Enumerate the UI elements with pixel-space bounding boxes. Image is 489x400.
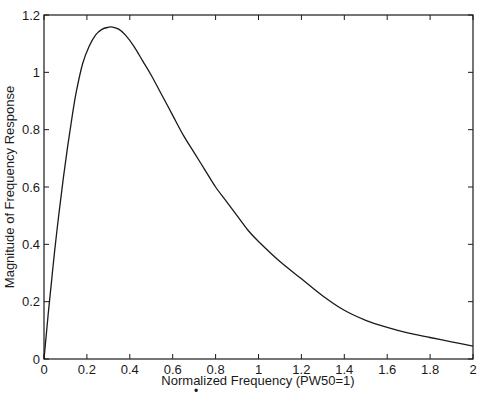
stray-dot-mark: • (194, 384, 198, 398)
x-axis-label: Normalized Frequency (PW50=1) (161, 373, 354, 388)
x-tick-label: 2 (469, 362, 476, 377)
x-tick-label: 1.6 (378, 362, 396, 377)
magnitude-curve (44, 27, 473, 359)
y-axis-label: Magnitude of Frequency Response (2, 86, 17, 288)
x-tick-label: 0.4 (121, 362, 139, 377)
x-tick-label: 0.2 (78, 362, 96, 377)
x-tick-label: 0 (40, 362, 47, 377)
y-tick-label: 0.2 (22, 294, 40, 309)
y-tick-label: 0.6 (22, 180, 40, 195)
y-axis-ticks: 00.20.40.60.811.2 (22, 8, 473, 367)
y-tick-label: 0 (33, 352, 40, 367)
y-tick-label: 1.2 (22, 8, 40, 23)
frequency-response-chart: 00.20.40.60.811.21.41.61.82 00.20.40.60.… (0, 0, 489, 400)
plot-frame (44, 15, 473, 359)
x-tick-label: 1.8 (421, 362, 439, 377)
plot-area: 00.20.40.60.811.21.41.61.82 00.20.40.60.… (22, 8, 477, 378)
y-tick-label: 0.8 (22, 122, 40, 137)
y-tick-label: 0.4 (22, 237, 40, 252)
x-axis-ticks: 00.20.40.60.811.21.41.61.82 (40, 15, 476, 377)
y-tick-label: 1 (33, 65, 40, 80)
